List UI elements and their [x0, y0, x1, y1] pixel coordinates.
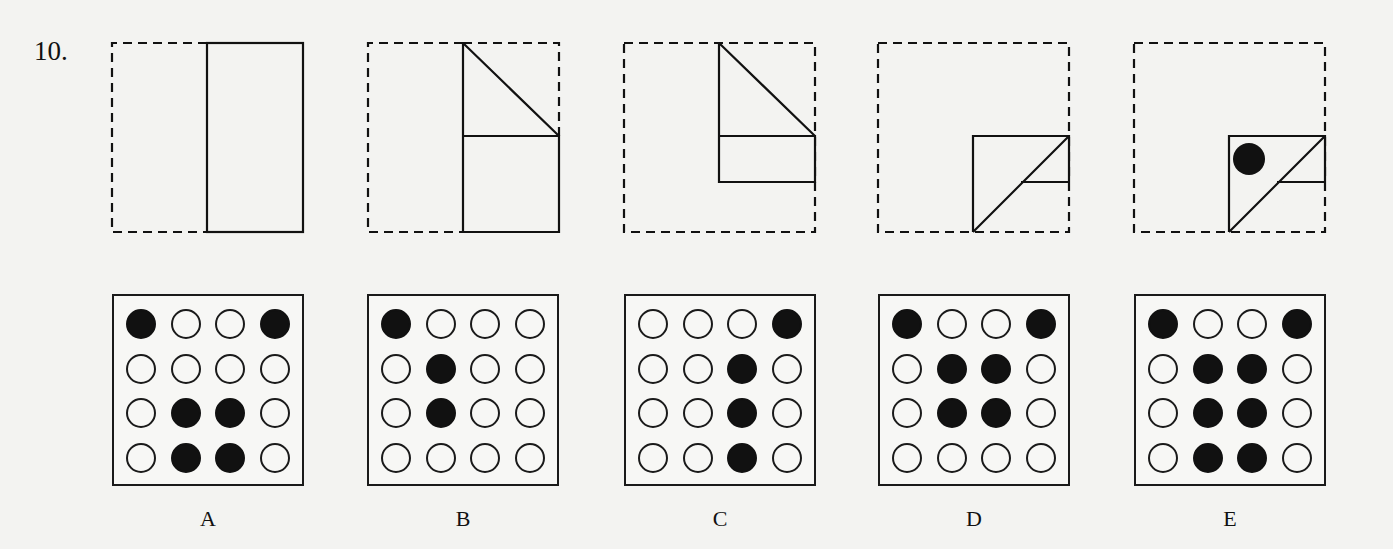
empty-dot	[470, 443, 500, 473]
empty-dot	[171, 354, 201, 384]
empty-dot	[470, 398, 500, 428]
dot-grid	[381, 309, 547, 475]
empty-dot	[381, 443, 411, 473]
hole-dot	[772, 309, 802, 339]
answer-option-d[interactable]: D	[878, 294, 1074, 532]
hole-dot	[1237, 354, 1267, 384]
empty-dot	[772, 354, 802, 384]
answer-label: C	[624, 506, 816, 532]
empty-dot	[126, 398, 156, 428]
hole-dot	[171, 443, 201, 473]
answer-c-paper	[624, 294, 816, 486]
answer-option-b[interactable]: B	[367, 294, 563, 532]
empty-dot	[937, 443, 967, 473]
empty-dot	[515, 443, 545, 473]
dot-grid	[126, 309, 292, 475]
empty-dot	[1148, 443, 1178, 473]
empty-dot	[638, 398, 668, 428]
empty-dot	[215, 354, 245, 384]
empty-dot	[981, 309, 1011, 339]
empty-dot	[892, 443, 922, 473]
empty-dot	[1148, 354, 1178, 384]
empty-dot	[515, 309, 545, 339]
answer-option-c[interactable]: C	[624, 294, 820, 532]
fold-step-5	[1133, 42, 1327, 234]
empty-dot	[772, 398, 802, 428]
empty-dot	[470, 309, 500, 339]
empty-dot	[981, 443, 1011, 473]
empty-dot	[515, 354, 545, 384]
empty-dot	[1148, 398, 1178, 428]
dot-grid	[638, 309, 804, 475]
empty-dot	[638, 309, 668, 339]
answer-label: E	[1134, 506, 1326, 532]
answer-label: D	[878, 506, 1070, 532]
empty-dot	[426, 443, 456, 473]
empty-dot	[260, 354, 290, 384]
fold-step-1-diagram	[111, 42, 305, 234]
hole-dot	[727, 354, 757, 384]
empty-dot	[892, 354, 922, 384]
empty-dot	[381, 398, 411, 428]
hole-dot	[215, 398, 245, 428]
punched-hole-icon	[1233, 143, 1265, 175]
empty-dot	[1237, 309, 1267, 339]
hole-dot	[981, 398, 1011, 428]
hole-dot	[1148, 309, 1178, 339]
fold-step-2-diagram	[367, 42, 561, 234]
answer-option-e[interactable]: E	[1134, 294, 1330, 532]
hole-dot	[937, 354, 967, 384]
answer-label: B	[367, 506, 559, 532]
fold-step-3	[623, 42, 817, 234]
hole-dot	[892, 309, 922, 339]
empty-dot	[772, 443, 802, 473]
answer-e-paper	[1134, 294, 1326, 486]
dot-grid	[892, 309, 1058, 475]
empty-dot	[727, 309, 757, 339]
empty-dot	[1193, 309, 1223, 339]
fold-step-1	[111, 42, 305, 234]
empty-dot	[381, 354, 411, 384]
empty-dot	[470, 354, 500, 384]
hole-dot	[727, 398, 757, 428]
answer-label: A	[112, 506, 304, 532]
hole-dot	[215, 443, 245, 473]
empty-dot	[683, 443, 713, 473]
hole-dot	[727, 443, 757, 473]
answer-d-paper	[878, 294, 1070, 486]
empty-dot	[937, 309, 967, 339]
answer-option-a[interactable]: A	[112, 294, 308, 532]
empty-dot	[426, 309, 456, 339]
empty-dot	[1282, 354, 1312, 384]
empty-dot	[1282, 443, 1312, 473]
hole-dot	[171, 398, 201, 428]
hole-dot	[260, 309, 290, 339]
hole-dot	[981, 354, 1011, 384]
empty-dot	[638, 354, 668, 384]
fold-step-5-diagram	[1133, 42, 1327, 234]
empty-dot	[683, 309, 713, 339]
fold-step-3-diagram	[623, 42, 817, 234]
empty-dot	[683, 354, 713, 384]
empty-dot	[215, 309, 245, 339]
dot-grid	[1148, 309, 1314, 475]
hole-dot	[381, 309, 411, 339]
empty-dot	[892, 398, 922, 428]
empty-dot	[683, 398, 713, 428]
empty-dot	[1282, 398, 1312, 428]
hole-dot	[1193, 354, 1223, 384]
hole-dot	[1026, 309, 1056, 339]
empty-dot	[260, 443, 290, 473]
hole-dot	[1193, 443, 1223, 473]
empty-dot	[126, 354, 156, 384]
hole-dot	[1193, 398, 1223, 428]
hole-dot	[1282, 309, 1312, 339]
empty-dot	[1026, 354, 1056, 384]
empty-dot	[1026, 443, 1056, 473]
empty-dot	[126, 443, 156, 473]
hole-dot	[426, 398, 456, 428]
hole-dot	[126, 309, 156, 339]
answer-a-paper	[112, 294, 304, 486]
hole-dot	[937, 398, 967, 428]
empty-dot	[638, 443, 668, 473]
